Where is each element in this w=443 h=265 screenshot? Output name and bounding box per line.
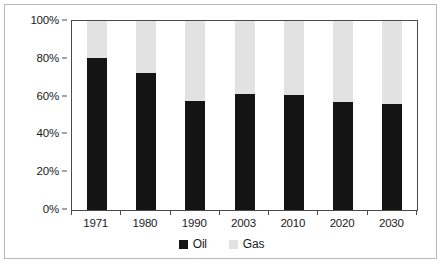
bar-group[interactable] xyxy=(235,21,255,210)
bar-segment-oil[interactable] xyxy=(87,58,107,210)
legend-label: Oil xyxy=(193,237,207,251)
plot-area xyxy=(71,20,418,211)
y-axis-tick-label: 40% xyxy=(37,127,59,139)
y-axis-tick-mark xyxy=(62,20,67,21)
bar-group[interactable] xyxy=(382,21,402,210)
x-axis-tick-label: 2010 xyxy=(280,217,305,229)
x-axis-tick-mark xyxy=(268,211,269,215)
x-axis-tick-mark xyxy=(219,211,220,215)
bar-segment-gas[interactable] xyxy=(333,21,353,102)
bar-segment-oil[interactable] xyxy=(284,95,304,210)
x-axis-tick-label: 2030 xyxy=(379,217,404,229)
bar-stack xyxy=(87,21,107,210)
x-axis-tick-label: 1980 xyxy=(133,217,158,229)
bar-group[interactable] xyxy=(87,21,107,210)
x-axis-tick-mark xyxy=(416,211,417,215)
bar-group[interactable] xyxy=(185,21,205,210)
legend-swatch-icon xyxy=(179,240,188,249)
x-axis: 1971198019902003201020202030 xyxy=(71,211,418,233)
chart-figure: 0%20%40%60%80%100% 197119801990200320102… xyxy=(4,4,437,259)
bar-segment-oil[interactable] xyxy=(136,73,156,210)
y-axis-tick-label: 60% xyxy=(37,90,59,102)
y-axis-tick-label: 80% xyxy=(37,52,59,64)
legend-item-gas[interactable]: Gas xyxy=(229,237,264,251)
y-axis-tick-mark xyxy=(62,57,67,58)
bar-segment-gas[interactable] xyxy=(185,21,205,101)
bar-stack xyxy=(284,21,304,210)
x-axis-tick-label: 2020 xyxy=(330,217,355,229)
y-axis-tick-mark xyxy=(62,95,67,96)
bar-stack xyxy=(333,21,353,210)
y-axis-tick-mark xyxy=(62,171,67,172)
bar-segment-gas[interactable] xyxy=(87,21,107,58)
y-axis-tick-mark xyxy=(62,133,67,134)
bar-segment-gas[interactable] xyxy=(136,21,156,73)
x-axis-tick-mark xyxy=(71,211,72,215)
y-axis-tick-mark xyxy=(62,209,67,210)
bar-stack xyxy=(185,21,205,210)
chart-legend: OilGas xyxy=(5,237,438,251)
bar-group[interactable] xyxy=(136,21,156,210)
x-axis-tick-mark xyxy=(170,211,171,215)
bar-stack xyxy=(136,21,156,210)
bar-segment-oil[interactable] xyxy=(235,94,255,210)
bar-segment-gas[interactable] xyxy=(382,21,402,104)
y-axis-tick-label: 20% xyxy=(37,165,59,177)
y-axis-tick-label: 100% xyxy=(30,14,59,26)
bar-segment-gas[interactable] xyxy=(284,21,304,95)
x-axis-tick-mark xyxy=(120,211,121,215)
x-axis-tick-mark xyxy=(367,211,368,215)
y-axis: 0%20%40%60%80%100% xyxy=(5,20,67,210)
bar-stack xyxy=(382,21,402,210)
legend-item-oil[interactable]: Oil xyxy=(179,237,207,251)
bar-segment-oil[interactable] xyxy=(382,104,402,210)
bar-group[interactable] xyxy=(333,21,353,210)
bar-segment-gas[interactable] xyxy=(235,21,255,94)
legend-swatch-icon xyxy=(229,240,238,249)
bar-segment-oil[interactable] xyxy=(333,102,353,210)
legend-label: Gas xyxy=(243,237,264,251)
y-axis-tick-label: 0% xyxy=(43,203,59,215)
bar-stack xyxy=(235,21,255,210)
x-axis-tick-label: 1971 xyxy=(83,217,108,229)
bar-group[interactable] xyxy=(284,21,304,210)
x-axis-tick-label: 2003 xyxy=(231,217,256,229)
bar-segment-oil[interactable] xyxy=(185,101,205,210)
x-axis-tick-mark xyxy=(317,211,318,215)
x-axis-tick-label: 1990 xyxy=(182,217,207,229)
